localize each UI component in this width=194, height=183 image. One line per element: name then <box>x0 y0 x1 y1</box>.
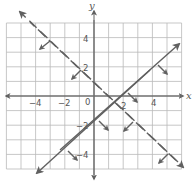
x-tick-label: 4 <box>151 98 156 108</box>
origin-label: 0 <box>85 97 90 107</box>
solid-boundary-line <box>37 44 179 173</box>
dashed-boundary-line <box>20 12 183 167</box>
x-tick-label: −2 <box>58 98 71 108</box>
x-tick-label: −4 <box>29 98 42 108</box>
axes <box>6 11 183 179</box>
y-axis-label: y <box>88 0 95 11</box>
shade-arrow-icon <box>158 65 167 74</box>
shade-arrow-icon <box>40 41 50 49</box>
coordinate-graph: x y −4 −2 2 4 0 4 2 −2 −4 <box>0 0 194 183</box>
shade-arrow-icon <box>128 93 137 102</box>
y-tick-label: −4 <box>76 150 89 160</box>
y-tick-label: 2 <box>83 63 88 73</box>
shade-arrow-icon <box>124 122 133 131</box>
y-tick-label: 4 <box>83 34 88 44</box>
x-axis-label: x <box>186 90 192 101</box>
